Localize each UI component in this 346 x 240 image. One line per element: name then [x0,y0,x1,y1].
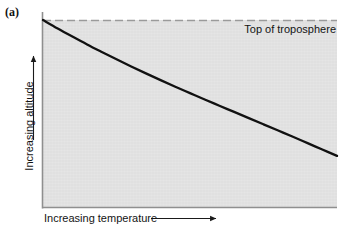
caption-arrows-layer [0,0,346,240]
y-axis-caption-wrap: Increasing altitude [21,66,37,186]
x-axis-caption: Increasing temperature [44,212,157,225]
tropopause-label: Top of troposphere [244,23,336,36]
y-axis-caption: Increasing altitude [21,66,37,186]
figure-panel-a: (a) Top of troposphere Increasin [0,0,346,240]
